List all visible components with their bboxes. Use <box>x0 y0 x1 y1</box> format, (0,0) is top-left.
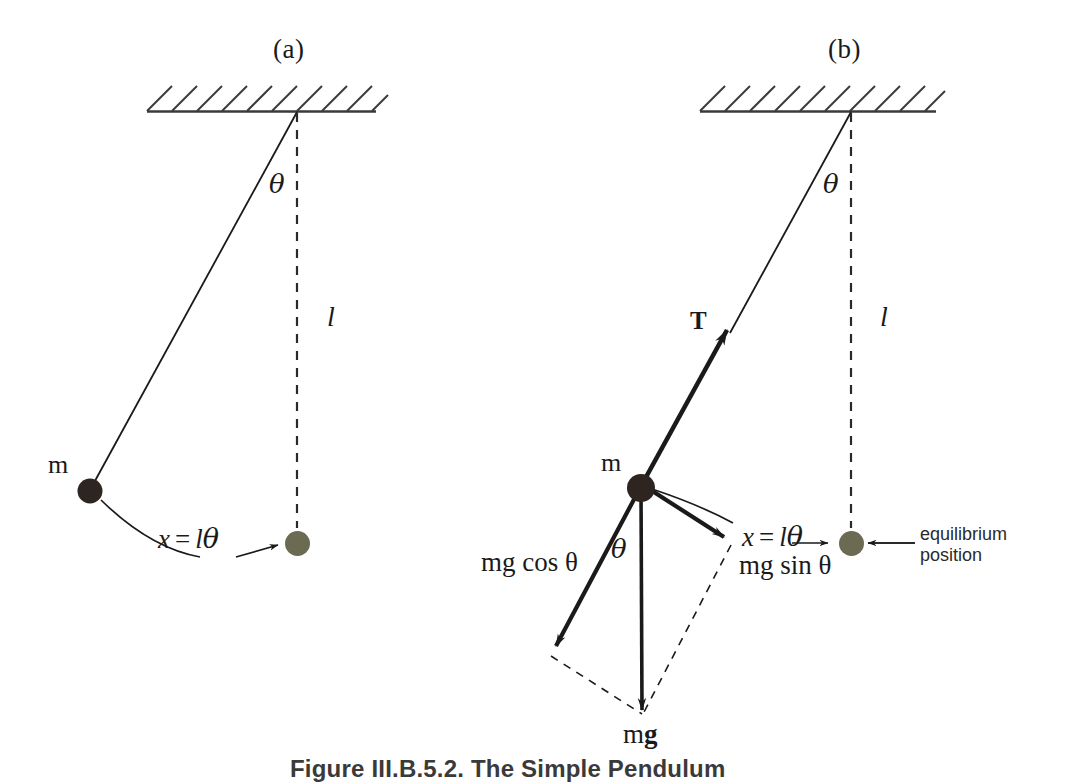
panel-a-displacement-formula: x=lθ <box>158 525 219 553</box>
equilibrium-position-note: equilibrium position <box>920 524 1007 566</box>
weight-label: mg <box>623 721 658 748</box>
mg-cos-theta-label: mg cos θ <box>481 549 578 576</box>
parallelogram-dashed-right <box>643 545 731 714</box>
mg-cos-text: mg cos θ <box>481 547 578 577</box>
parallelogram-dashed-left <box>551 656 642 714</box>
equilibrium-bob-b <box>839 531 864 556</box>
ceiling-hatch-a <box>147 86 388 111</box>
formula-b-theta: θ <box>787 521 803 552</box>
equilibrium-bob-a <box>285 531 310 556</box>
weight-g: g <box>644 719 658 749</box>
panel-a-title: (a) <box>273 36 304 63</box>
tension-vector-arrow <box>640 330 727 488</box>
formula-b-l: l <box>779 522 787 552</box>
figure-caption: Figure III.B.5.2. The Simple Pendulum <box>290 757 725 781</box>
mg-sin-theta-label: mg sin θ <box>739 552 831 579</box>
panel-a-length-label: l <box>327 303 335 331</box>
panel-b-title: (b) <box>828 36 861 63</box>
panel-a-mass-label: m <box>48 452 68 478</box>
panel-a-geometry <box>78 86 389 557</box>
formula-a-l: l <box>195 524 203 554</box>
pendulum-string-a <box>90 112 297 490</box>
pendulum-bob-b <box>627 474 655 502</box>
weight-vector-arrow <box>641 489 642 710</box>
formula-a-x: x <box>158 524 170 554</box>
pendulum-string-b <box>730 112 851 333</box>
panel-b-length-label: l <box>880 303 888 331</box>
formula-a-eq: = <box>170 524 195 554</box>
panel-b-displacement-formula: x=lθ <box>742 523 803 551</box>
panel-b-angle-top-label: θ <box>823 171 839 197</box>
mg-sin-text: mg sin θ <box>739 550 831 580</box>
panel-b-geometry <box>551 86 945 714</box>
formula-b-eq: = <box>754 522 779 552</box>
tension-label: T <box>690 308 707 333</box>
formula-a-theta: θ <box>203 523 219 554</box>
panel-b-mass-label: m <box>601 450 621 476</box>
ceiling-hatch-b <box>700 86 945 111</box>
panel-a-angle-label: θ <box>269 171 285 197</box>
pendulum-bob-a <box>78 479 103 504</box>
formula-b-x: x <box>742 522 754 552</box>
weight-m: m <box>623 719 644 749</box>
panel-b-angle-bob-label: θ <box>611 536 627 562</box>
arc-displacement-arrow-a <box>236 545 278 557</box>
